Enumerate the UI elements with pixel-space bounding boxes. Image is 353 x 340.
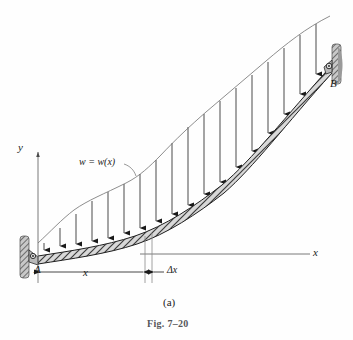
support-a-pin-center bbox=[32, 255, 34, 257]
load-intensity-curve bbox=[38, 16, 330, 243]
support-b-wall-face bbox=[338, 46, 343, 84]
support-a-wall bbox=[20, 236, 29, 278]
load-label-leader bbox=[124, 164, 136, 176]
figure-caption: Fig. 7–20 bbox=[147, 319, 189, 329]
figure-7-20: y x A B w = w(x) x Δx (a) Fig. 7–20 bbox=[0, 0, 353, 340]
figure-part-label: (a) bbox=[163, 297, 175, 308]
cable-bottom-edge bbox=[38, 73, 332, 264]
support-a-label: A bbox=[34, 264, 41, 275]
support-b-pin-center bbox=[328, 65, 330, 67]
dimension-x-label: x bbox=[83, 267, 88, 278]
support-b-label: B bbox=[330, 78, 337, 89]
dimension-delta-x-label: Δx bbox=[167, 265, 177, 275]
y-axis-label: y bbox=[18, 142, 23, 153]
cable-distributed-load-diagram bbox=[0, 0, 353, 340]
load-function-label: w = w(x) bbox=[79, 157, 115, 167]
x-axis-label: x bbox=[313, 247, 318, 258]
